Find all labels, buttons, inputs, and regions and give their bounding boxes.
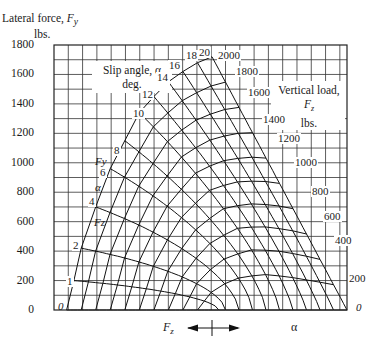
curve-label: Fz bbox=[93, 217, 106, 228]
y-axis-symbol: F bbox=[67, 12, 74, 24]
curve-label: 16 bbox=[168, 60, 181, 71]
curve-label: 1800 bbox=[235, 66, 259, 77]
slip-angle-curve bbox=[125, 141, 266, 310]
curve-label: 0 bbox=[57, 301, 65, 312]
curve-label: 4 bbox=[88, 196, 96, 207]
slip-angle-curve bbox=[96, 207, 239, 310]
alpha-direction-label: α bbox=[291, 320, 297, 335]
curve-label: 14 bbox=[156, 72, 169, 83]
curve-label: 6 bbox=[99, 167, 107, 178]
curve-label: α bbox=[94, 182, 102, 193]
y-axis-title-text: Lateral force, bbox=[2, 12, 67, 24]
curve-label: 12 bbox=[141, 89, 154, 100]
y-tick-label: 0 bbox=[0, 303, 34, 315]
curve-label: 2 bbox=[72, 240, 80, 251]
vertical-load-curve bbox=[198, 275, 334, 310]
curve-label: 600 bbox=[323, 211, 342, 222]
y-axis-symbol-sub: y bbox=[74, 16, 78, 27]
curve-label: 10 bbox=[132, 108, 145, 119]
y-tick-label: 600 bbox=[0, 215, 34, 227]
curve-label: 8 bbox=[113, 145, 121, 156]
fz-symbol-sub: z bbox=[170, 326, 174, 336]
y-tick-label: 1000 bbox=[0, 156, 34, 168]
vertical-load-symbol: F bbox=[304, 98, 311, 110]
y-tick-label: 1800 bbox=[0, 38, 34, 50]
vertical-load-curve bbox=[67, 57, 212, 310]
y-tick-label: 1400 bbox=[0, 97, 34, 109]
y-tick-label: 1600 bbox=[0, 67, 34, 79]
vertical-load-title: Vertical load, bbox=[278, 84, 339, 96]
vertical-load-symbol-sub: z bbox=[311, 104, 314, 113]
y-tick-label: 1200 bbox=[0, 126, 34, 138]
curve-label: 1600 bbox=[247, 87, 271, 98]
curve-label: Fy bbox=[94, 156, 108, 167]
x-direction-legend: Fz α bbox=[160, 318, 310, 338]
fz-direction-label: Fz bbox=[163, 320, 174, 336]
curve-label: 800 bbox=[311, 186, 330, 197]
curve-label: 2000 bbox=[217, 50, 241, 61]
y-tick-label: 200 bbox=[0, 274, 34, 286]
curve-label: 20 bbox=[198, 47, 211, 58]
curve-label: 1400 bbox=[262, 114, 286, 125]
curve-label: 200 bbox=[348, 273, 367, 284]
curve-label: 18 bbox=[185, 50, 198, 61]
y-tick-label: 400 bbox=[0, 244, 34, 256]
curve-label: 1 bbox=[66, 276, 74, 287]
curve-label: 1200 bbox=[277, 133, 301, 144]
curve-label: 0 bbox=[355, 302, 363, 313]
y-axis-title: Lateral force, Fy lbs. bbox=[2, 12, 78, 41]
curve-label: 1000 bbox=[294, 157, 318, 168]
y-tick-label: 800 bbox=[0, 185, 34, 197]
curve-label: 400 bbox=[334, 235, 353, 246]
